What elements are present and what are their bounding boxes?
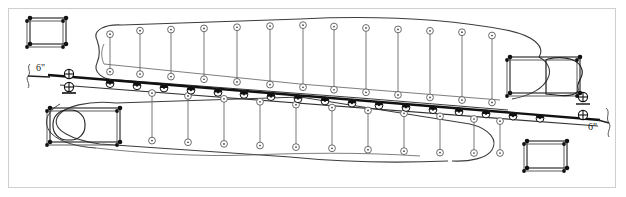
sprinkler-head-icon [137, 71, 144, 78]
riser-symbol-icon [375, 101, 383, 109]
corner-node-dot [565, 166, 570, 171]
corner-node-dot [575, 94, 579, 98]
sprinkler-head-icon [363, 25, 370, 32]
sprinkler-head-icon [489, 99, 496, 106]
corner-node-dot [118, 140, 123, 145]
sprinkler-head-icon [234, 24, 241, 31]
sprinkler-head-icon [497, 150, 504, 157]
corner-node-dot [578, 55, 583, 60]
corner-node-dot [45, 109, 49, 113]
sprinkler-head-icon [257, 98, 264, 105]
sprinkler-head-icon [168, 26, 175, 33]
sprinkler-head-icon [427, 27, 434, 34]
sprinkler-head-icon [267, 23, 274, 30]
sprinkler-head-icon [300, 22, 307, 29]
corner-node-dot [64, 42, 69, 47]
sprinkler-head-icon [365, 107, 372, 114]
sprinkler-head-icon [401, 148, 408, 155]
riser-symbol-icon [455, 108, 463, 116]
corner-node-dot [48, 106, 53, 111]
sprinkler-head-icon [331, 86, 338, 93]
corner-node-dot [61, 45, 65, 49]
riser-symbol-icon [348, 99, 356, 107]
riser-symbol-icon [106, 80, 114, 88]
sprinkler-head-icon [363, 89, 370, 96]
corner-node-dot [25, 45, 29, 49]
corner-node-dot [508, 55, 513, 60]
pad-upper-right [505, 55, 582, 98]
sprinkler-head-icon [300, 84, 307, 91]
riser-symbol-icon [133, 82, 141, 90]
sprinkler-head-icon [497, 118, 504, 125]
riser-symbol-icon [429, 106, 437, 114]
sprinkler-head-icon [489, 32, 496, 39]
sprinkler-head-icon [107, 31, 114, 38]
corner-node-dot [525, 139, 530, 144]
connection-squiggle-right [598, 108, 610, 137]
pad-outline [527, 141, 567, 168]
corner-node-dot [61, 19, 65, 23]
sprinkler-head-icon [395, 26, 402, 33]
drawing-sheet: 6" 6" [0, 0, 626, 197]
sprinkler-head-icon [427, 94, 434, 101]
corner-node-dot [522, 142, 526, 146]
sprinkler-head-icon [221, 95, 228, 102]
sprinkler-head-icon [137, 27, 144, 34]
corner-node-dot [48, 140, 53, 145]
riser-symbol-icon [214, 88, 222, 96]
riser-symbol-icon [321, 97, 329, 105]
corner-node-dot [565, 139, 570, 144]
corner-node-dot [28, 16, 33, 21]
corner-node-dot [118, 106, 123, 111]
riser-symbol-icon [509, 112, 517, 120]
dim-label-right: 6" [588, 121, 597, 132]
sprinkler-head-icon [257, 142, 264, 149]
corner-node-dot [64, 16, 69, 21]
upper-field-outline [96, 18, 550, 110]
sprinkler-head-icon [471, 116, 478, 123]
riser-symbol-icon [240, 91, 248, 99]
sprinkler-head-icon [149, 90, 156, 97]
irrigation-plan-svg: 6" 6" [0, 0, 626, 197]
sprinkler-head-icon [329, 104, 336, 111]
corner-node-dot [505, 94, 509, 98]
riser-symbol-icon [160, 84, 168, 92]
sprinkler-head-icon [149, 137, 156, 144]
sprinkler-head-icon [293, 144, 300, 151]
corner-node-dot [508, 91, 513, 96]
sprinkler-head-icon [329, 145, 336, 152]
corner-node-dot [562, 142, 566, 146]
corner-node-dot [115, 109, 119, 113]
riser-symbol-icon [482, 110, 490, 118]
corner-node-dot [115, 143, 119, 147]
sprinkler-head-icon [459, 29, 466, 36]
pad-offset-outline [524, 144, 564, 171]
sprinkler-head-icon [331, 23, 338, 30]
corner-node-dot [505, 58, 509, 62]
riser-symbol-icon [187, 86, 195, 94]
sprinkler-head-icon [221, 140, 228, 147]
corner-node-dot [525, 166, 530, 171]
sprinkler-head-icon [437, 149, 444, 156]
corner-node-dot [28, 42, 33, 47]
pad-lower-right [522, 139, 569, 173]
sprinkler-head-icon [168, 73, 175, 80]
sprinkler-head-icon [185, 139, 192, 146]
sprinkler-head-icon [459, 97, 466, 104]
riser-symbol-icon [402, 104, 410, 112]
pad-offset-outline [507, 60, 577, 96]
riser-symbol-icon [536, 114, 544, 122]
sprinkler-head-icon [365, 146, 372, 153]
sprinkler-head-icon [201, 76, 208, 83]
sprinkler-head-icon [201, 25, 208, 32]
corner-node-dot [562, 169, 566, 173]
riser-symbol-icon [294, 95, 302, 103]
sprinkler-head-icon [471, 150, 478, 157]
sprinkler-head-icon [437, 113, 444, 120]
pad-upper-left [25, 16, 68, 49]
sprinkler-head-icon [234, 79, 241, 86]
corner-node-dot [522, 169, 526, 173]
pad-outline [510, 57, 580, 93]
corner-node-dot [45, 143, 49, 147]
pad-outline [30, 18, 66, 44]
